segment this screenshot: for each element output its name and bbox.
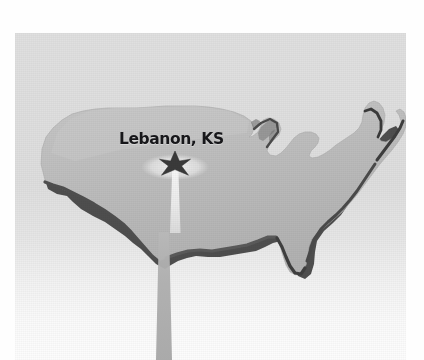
map-panel [15, 33, 406, 360]
us-map-svg [15, 33, 406, 360]
map-figure: Lebanon, KS [0, 0, 424, 360]
city-label: Lebanon, KS [119, 130, 224, 148]
land-layer [41, 101, 406, 275]
